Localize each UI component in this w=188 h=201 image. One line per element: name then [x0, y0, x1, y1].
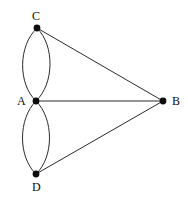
edge-A-D-right	[36, 101, 50, 174]
edge-D-B	[36, 101, 163, 174]
vertex-B	[160, 98, 167, 105]
graph-canvas	[0, 0, 188, 201]
edge-A-D-left	[23, 101, 37, 174]
vertex-D	[33, 171, 40, 178]
vertex-label-c: C	[32, 10, 40, 22]
edge-C-B	[37, 28, 163, 101]
vertex-A	[33, 98, 40, 105]
vertex-C	[34, 25, 41, 32]
vertex-label-d: D	[32, 181, 41, 193]
edge-A-C-right	[36, 28, 50, 101]
vertex-label-a: A	[17, 95, 26, 107]
edge-A-C-left	[23, 28, 37, 101]
vertex-label-b: B	[172, 95, 180, 107]
graph-figure: C A B D	[0, 0, 188, 201]
